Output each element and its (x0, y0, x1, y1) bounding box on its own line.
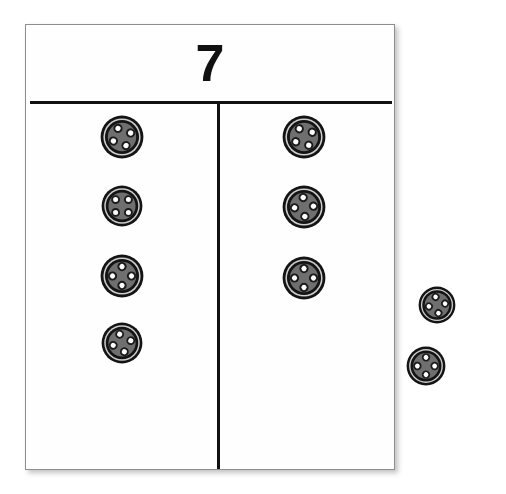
button-counter[interactable] (100, 115, 144, 159)
loose-button-slot (406, 346, 446, 386)
loose-buttons-group (402, 286, 482, 406)
button-counter[interactable] (101, 185, 143, 227)
button-counter[interactable] (101, 322, 143, 364)
button-counter[interactable] (282, 115, 326, 159)
button-counter[interactable] (100, 254, 144, 298)
worksheet-canvas: 7 (0, 0, 506, 494)
button-counter[interactable] (282, 185, 326, 229)
whole-number-value: 7 (26, 25, 394, 101)
part-right-column (211, 115, 396, 300)
part-part-whole-mat: 7 (25, 24, 395, 470)
loose-button-slot (418, 286, 456, 324)
button-counter[interactable] (282, 256, 326, 300)
part-left-column (29, 115, 214, 364)
mat-horizontal-rule (30, 101, 392, 104)
button-counter[interactable] (418, 286, 456, 324)
button-counter[interactable] (406, 346, 446, 386)
